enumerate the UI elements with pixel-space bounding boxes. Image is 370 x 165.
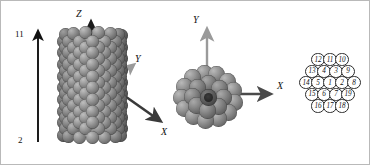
hexagonal-index-map: 12111013439145128156719161718: [293, 53, 367, 115]
length-arrow-icon: [31, 29, 45, 144]
length-label-bottom: 2: [18, 136, 23, 145]
nanorod-top-view: [169, 61, 247, 133]
hex-index-row: 156719: [293, 88, 367, 100]
hex-index-row: 13439: [293, 65, 367, 77]
side-view-y-label: Y: [135, 54, 141, 64]
atom-sphere: [86, 116, 99, 129]
top-view-y-label: Y: [193, 15, 199, 25]
hex-index-row: 121110: [293, 53, 367, 65]
nanorod-side-view: [56, 29, 128, 141]
side-view-x-label: X: [161, 127, 167, 137]
hex-index-cell[interactable]: 18: [335, 99, 348, 112]
hex-index-row: 145128: [293, 76, 367, 88]
hex-index-row: 161718: [293, 99, 367, 111]
cluster-core: [204, 93, 213, 102]
length-scale-arrow: [31, 29, 45, 144]
top-view-x-label: X: [277, 81, 283, 91]
length-label-top: 11: [15, 30, 24, 39]
side-view-z-label: Z: [76, 9, 82, 19]
atom-sphere: [86, 131, 99, 144]
figure-canvas: 11 2 Z Y: [0, 0, 370, 165]
